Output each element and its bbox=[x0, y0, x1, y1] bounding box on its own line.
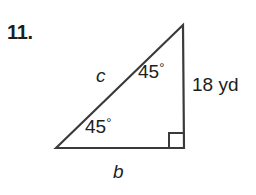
angle-upper-value: 45 bbox=[138, 61, 159, 82]
degree-icon: ° bbox=[106, 115, 111, 130]
hypotenuse-label: c bbox=[96, 66, 106, 85]
triangle-drawing bbox=[0, 0, 256, 195]
base-label: b bbox=[113, 162, 124, 181]
angle-label-lower: 45° bbox=[85, 116, 111, 136]
right-angle-marker bbox=[169, 133, 184, 148]
degree-icon: ° bbox=[159, 60, 164, 75]
angle-label-upper: 45° bbox=[138, 61, 164, 81]
vertical-measure-label: 18 yd bbox=[192, 75, 238, 94]
geometry-figure: 11. c b 45° 45° 18 yd bbox=[0, 0, 256, 195]
angle-lower-value: 45 bbox=[85, 116, 106, 137]
triangle-outline bbox=[56, 25, 184, 148]
